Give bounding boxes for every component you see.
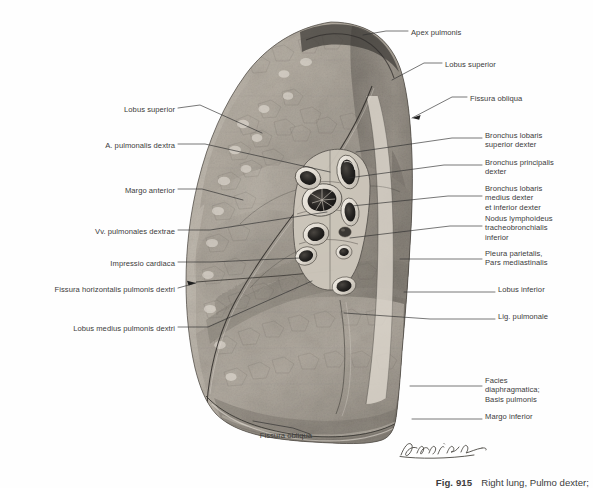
figure-number: Fig. 915 bbox=[436, 477, 473, 488]
leader-bronchus-lob-med bbox=[352, 196, 482, 206]
label-lobus-superior: Lobus superior bbox=[124, 105, 175, 114]
leader-bronchus-princ bbox=[348, 165, 482, 178]
label-lig-pulmonale: Lig. pulmonale bbox=[498, 312, 548, 321]
label-fissura-obliqua-superior: Fissura obliqua bbox=[470, 94, 522, 103]
leader-impressio bbox=[178, 258, 300, 262]
label-margo-inferior: Margo inferior bbox=[485, 412, 533, 421]
figure-plate: Lobus superiorA. pulmonalis dextraMargo … bbox=[0, 0, 593, 488]
leader-lig-pulmonale bbox=[344, 313, 495, 319]
label-fissura-horizontalis: Fissura horizontalis pulmonis dextri bbox=[55, 285, 175, 294]
label-facies-diaphragmatica: Facies diaphragmatica; Basis pulmonis bbox=[485, 376, 540, 404]
leader-arrowheads bbox=[187, 115, 421, 285]
label-lobus-superior-right: Lobus superior bbox=[445, 60, 496, 69]
label-fissura-obliqua-inferior: Fissura obliqua bbox=[260, 431, 312, 440]
leader-vv-pulmonales bbox=[178, 212, 327, 230]
label-vv-pulmonales-dextrae: Vv. pulmonales dextrae bbox=[95, 227, 175, 236]
leader-nodus bbox=[350, 226, 482, 238]
label-bronchus-lobaris-superior-dexter: Bronchus lobaris superior dexter bbox=[485, 131, 542, 150]
arrowhead-fissura-horizontalis bbox=[187, 281, 196, 286]
leader-lobus-superior-r bbox=[392, 63, 442, 80]
leader-bronchus-lob-sup bbox=[356, 138, 482, 152]
label-a-pulmonalis-dextra: A. pulmonalis dextra bbox=[105, 141, 175, 150]
leader-margo-anterior bbox=[178, 189, 243, 200]
label-lobus-medius: Lobus medius pulmonis dextri bbox=[73, 324, 175, 333]
figure-title: Right lung, Pulmo dexter; bbox=[481, 477, 589, 488]
leader-lobus-superior bbox=[178, 105, 262, 133]
figure-caption: Fig. 915Right lung, Pulmo dexter; bbox=[425, 466, 589, 488]
leader-a-pulmonalis bbox=[178, 144, 330, 172]
label-bronchus-lobaris-medius: Bronchus lobaris medius dexter et inferi… bbox=[485, 184, 542, 212]
label-margo-anterior: Margo anterior bbox=[125, 186, 175, 195]
leader-apex bbox=[363, 31, 408, 35]
leader-lobus-medius bbox=[178, 281, 312, 327]
label-pleura-parietalis: Pleura parietalis, Pars mediastinalis bbox=[485, 249, 548, 268]
label-nodus-lymphoideus: Nodus lymphoideus tracheobronchialis inf… bbox=[485, 214, 553, 242]
leader-fissura-obliqua-s bbox=[412, 97, 467, 118]
label-impressio-cardiaca: Impressio cardiaca bbox=[110, 259, 175, 268]
label-apex-pulmonis: Apex pulmonis bbox=[411, 28, 461, 37]
label-lobus-inferior: Lobus inferior bbox=[498, 285, 545, 294]
label-bronchus-principalis-dexter: Bronchus principalis dexter bbox=[485, 158, 554, 177]
